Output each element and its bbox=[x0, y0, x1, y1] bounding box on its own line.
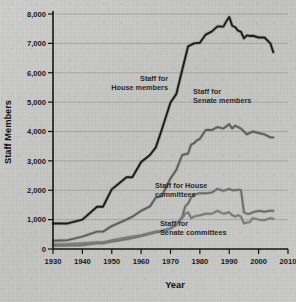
x-axis-tick-label: 1950 bbox=[103, 257, 120, 266]
y-axis-title: Staff Members bbox=[3, 100, 13, 164]
y-axis-tick-label: 7,000 bbox=[27, 39, 46, 48]
y-axis-tick-label: 8,000 bbox=[27, 10, 46, 19]
x-axis-tick-label: 1930 bbox=[45, 257, 62, 266]
chart-figure: 01,0002,0003,0004,0005,0006,0007,0008,00… bbox=[0, 0, 296, 302]
y-axis-tick-label: 4,000 bbox=[27, 127, 46, 136]
y-axis-tick-label: 5,000 bbox=[27, 98, 46, 107]
x-axis-tick-label: 1940 bbox=[74, 257, 91, 266]
series-annotation-label: Staff forHouse members bbox=[111, 74, 168, 92]
series-annotation-label: Staff forSenate committees bbox=[160, 219, 227, 237]
y-axis-tick-label: 6,000 bbox=[27, 69, 46, 78]
x-axis-tick-label: 1980 bbox=[191, 257, 208, 266]
x-axis-tick-label: 2000 bbox=[250, 257, 267, 266]
y-axis-tick-label: 0 bbox=[42, 245, 46, 254]
x-axis-tick-label: 1970 bbox=[162, 257, 179, 266]
line-chart: 01,0002,0003,0004,0005,0006,0007,0008,00… bbox=[0, 0, 296, 302]
y-axis-tick-label: 2,000 bbox=[27, 186, 46, 195]
x-axis-tick-label: 1990 bbox=[221, 257, 238, 266]
x-axis-title: Year bbox=[165, 280, 185, 290]
y-axis-tick-label: 1,000 bbox=[27, 215, 46, 224]
x-axis-tick-label: 1960 bbox=[133, 257, 150, 266]
x-axis-tick-label: 2010 bbox=[280, 257, 296, 266]
series-annotation-label: Staff forSenate members bbox=[193, 87, 251, 105]
y-axis-tick-label: 3,000 bbox=[27, 157, 46, 166]
